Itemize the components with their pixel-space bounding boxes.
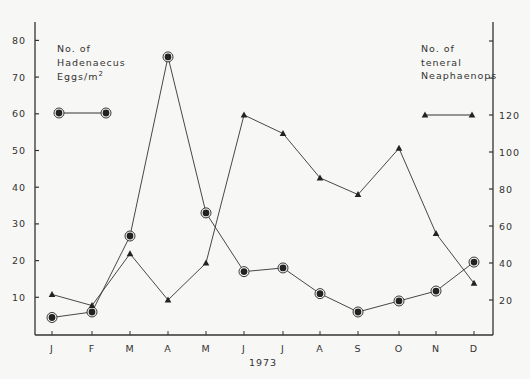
- left-tick-label: 40: [12, 182, 26, 193]
- x-axis-label: 1973: [249, 357, 277, 368]
- x-tick-label: A: [164, 343, 172, 354]
- x-tick-label: D: [470, 343, 478, 354]
- egg-point-dot: [317, 290, 324, 297]
- neaphaenops-point: [127, 250, 134, 256]
- x-tick-label: J: [49, 343, 54, 354]
- x-tick-label: M: [201, 343, 210, 354]
- left-tick-label: 10: [12, 292, 26, 303]
- egg-point-dot: [165, 54, 172, 61]
- egg-point-dot: [396, 298, 403, 305]
- legend-left-line2: Hadenaecus: [57, 57, 126, 68]
- legend: No. of Hadenaecus Eggs/m2 No. of teneral…: [54, 43, 497, 118]
- egg-point-dot: [49, 314, 56, 321]
- x-tick-label: F: [89, 343, 95, 354]
- egg-point-dot: [241, 268, 248, 275]
- right-tick-label: 40: [499, 258, 513, 269]
- neaphaenops-point: [433, 230, 440, 236]
- left-tick-label: 30: [12, 218, 26, 229]
- neaphaenops-point: [203, 260, 210, 266]
- egg-point-dot: [89, 309, 96, 316]
- egg-point-dot: [471, 259, 478, 266]
- left-tick-label: 70: [12, 72, 26, 83]
- legend-right-line1: No. of: [421, 43, 455, 54]
- neaphaenops-line: [52, 115, 474, 306]
- egg-point-dot: [127, 233, 134, 240]
- egg-point-dot: [203, 209, 210, 216]
- x-tick-label: S: [354, 343, 361, 354]
- x-tick-label: M: [125, 343, 134, 354]
- right-tick-label: 80: [499, 184, 513, 195]
- egg-point-dot: [355, 309, 362, 316]
- chart: 102030405060708020406080100120JFMAMJJASO…: [0, 0, 530, 379]
- legend-left-marker-dot: [103, 110, 110, 117]
- left-tick-label: 20: [12, 255, 26, 266]
- eggs-line: [52, 57, 474, 318]
- series: [47, 52, 479, 323]
- right-tick-label: 120: [499, 110, 520, 121]
- egg-point-dot: [280, 265, 287, 272]
- left-tick-label: 50: [12, 145, 26, 156]
- x-tick-label: J: [280, 343, 285, 354]
- right-tick-label: 20: [499, 295, 513, 306]
- x-tick-label: J: [241, 343, 246, 354]
- left-tick-label: 80: [12, 35, 26, 46]
- legend-left-line1: No. of: [57, 43, 91, 54]
- neaphaenops-point: [241, 112, 248, 118]
- neaphaenops-point: [396, 145, 403, 151]
- right-tick-label: 60: [499, 221, 513, 232]
- legend-left-marker-dot: [56, 110, 63, 117]
- right-tick-label: 100: [499, 147, 520, 158]
- legend-left-line3: Eggs/m2: [57, 70, 104, 82]
- x-tick-label: A: [316, 343, 324, 354]
- left-tick-label: 60: [12, 108, 26, 119]
- neaphaenops-point: [49, 291, 56, 297]
- x-tick-label: N: [432, 343, 440, 354]
- neaphaenops-point: [280, 130, 287, 136]
- legend-right-line2: teneral: [421, 57, 462, 68]
- legend-right-line3: Neaphaenops: [421, 70, 497, 81]
- egg-point-dot: [433, 288, 440, 295]
- x-tick-label: O: [395, 343, 403, 354]
